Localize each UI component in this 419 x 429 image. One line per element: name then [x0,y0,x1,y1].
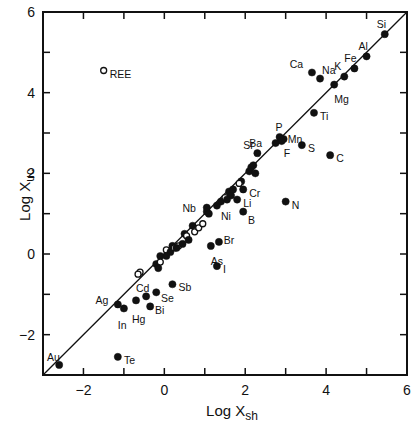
data-point-mg [331,81,338,88]
data-point-c [327,152,334,159]
data-point [236,180,242,186]
data-point-cr [240,186,247,193]
x-tick-label: 6 [403,382,411,398]
y-axis-label-main: Log X [16,182,33,221]
data-point-ag [114,301,121,308]
point-label-te: Te [124,354,135,366]
point-label-sr: Sr [243,139,254,151]
data-point-ree [101,67,107,73]
point-label-b: B [248,214,255,226]
data-point-al [363,53,370,60]
data-point-n [282,198,289,205]
y-tick-label: 4 [27,85,35,101]
point-label-ti: Ti [320,110,328,122]
x-axis-label-main: Log X [206,402,245,419]
point-label-hg: Hg [132,313,146,325]
data-point [179,240,186,247]
x-tick-label: −2 [75,382,91,398]
data-point-f [278,137,285,144]
y-axis-label-sub: uc [23,169,37,182]
data-point-br [215,238,222,245]
data-point-b [240,208,247,215]
point-label-br: Br [224,234,235,246]
data-point-nb [203,204,210,211]
data-point [185,236,192,243]
point-label-ca: Ca [290,58,304,70]
point-label-se: Se [161,292,174,304]
data-point-li [234,196,241,203]
scatter-chart: −20246−20246 SiAlFeKCaNaMgTiPMnBaFSCSrCr… [0,0,419,429]
x-axis-label-sub: sh [245,409,258,423]
point-labels: SiAlFeKCaNaMgTiPMnBaFSCSrCrNLiBNiNbBrAsI… [47,18,386,366]
data-point-ti [310,109,317,116]
point-label-bi: Bi [155,304,164,316]
data-point-fe [351,65,358,72]
x-tick-label: 4 [322,382,330,398]
y-axis-label: Log Xuc [16,169,37,221]
data-point [250,162,257,169]
data-point-sb [169,281,176,288]
data-point [157,259,163,265]
point-label-cd: Cd [136,282,150,294]
point-label-i: I [223,263,226,275]
data-point-ni [223,196,230,203]
data-point [173,244,180,251]
y-tick-label: −2 [19,327,35,343]
x-axis-label: Log Xsh [206,402,258,423]
point-label-mn: Mn [288,133,303,145]
point-label-fe: Fe [344,52,356,64]
point-label-sb: Sb [178,281,191,293]
point-label-ni: Ni [221,210,231,222]
point-label-p: P [276,121,283,133]
data-point-te [114,353,121,360]
point-label-au: Au [47,351,60,363]
point-label-f: F [284,147,290,159]
data-point [155,265,162,272]
point-label-as: As [211,255,223,267]
data-point-ca [308,69,315,76]
y-tick-label: 6 [27,4,35,20]
data-point-si [381,31,388,38]
data-point-bi [147,303,154,310]
data-point-hg [132,297,139,304]
point-label-na: Na [322,64,336,76]
x-tick-label: 2 [241,382,249,398]
point-label-n: N [292,199,300,211]
data-point [163,252,170,259]
point-label-al: Al [358,40,367,52]
point-label-li: Li [243,197,251,209]
point-label-s: S [308,142,315,154]
point-label-ree: REE [110,68,132,80]
data-point-sr [254,150,261,157]
data-point [200,221,206,227]
point-label-si: Si [377,18,386,30]
x-tick-label: 0 [160,382,168,398]
data-point [252,170,259,177]
point-label-ag: Ag [96,294,109,306]
data-point [135,271,141,277]
point-label-c: C [336,152,344,164]
y-tick-label: 0 [27,246,35,262]
data-point-se [153,289,160,296]
point-label-nb: Nb [183,202,197,214]
data-point-as [207,242,214,249]
data-point-in [120,305,127,312]
point-label-in: In [118,319,127,331]
data-point [229,186,236,193]
point-label-mg: Mg [334,93,349,105]
data-point-k [341,73,348,80]
